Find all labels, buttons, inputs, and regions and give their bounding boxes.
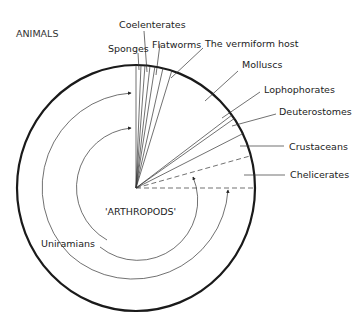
middle-bottom-arc-arrow [70, 190, 228, 279]
label-crustaceans: Crustaceans [289, 141, 348, 152]
label-vermiform-host: The vermiform host [204, 38, 299, 49]
label-molluscs: Molluscs [242, 59, 282, 70]
leader-lines [138, 31, 285, 175]
label-arthropods: 'ARTHROPODS' [105, 206, 176, 217]
label-flatworms: Flatworms [152, 39, 201, 50]
diagram-title: ANIMALS [16, 28, 58, 39]
label-uniramians: Uniramians [41, 238, 95, 249]
animals-diagram: ANIMALS Sponges Coelenterates Fla [0, 0, 353, 321]
label-sponges: Sponges [108, 43, 149, 54]
inner-arc-arrow [76, 128, 131, 240]
label-coelenterates: Coelenterates [119, 19, 186, 30]
inner-right-arc-arrow [100, 177, 198, 260]
label-chelicerates: Chelicerates [290, 169, 349, 180]
label-lophophorates: Lophophorates [264, 84, 335, 95]
fan-lines [136, 65, 244, 188]
label-deuterostomes: Deuterostomes [279, 106, 352, 117]
middle-arc-arrow [42, 93, 131, 255]
